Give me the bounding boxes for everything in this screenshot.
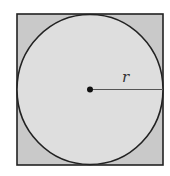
radius-label: r xyxy=(122,68,130,86)
center-point xyxy=(87,87,93,93)
inscribed-circle-diagram: r xyxy=(0,0,170,176)
